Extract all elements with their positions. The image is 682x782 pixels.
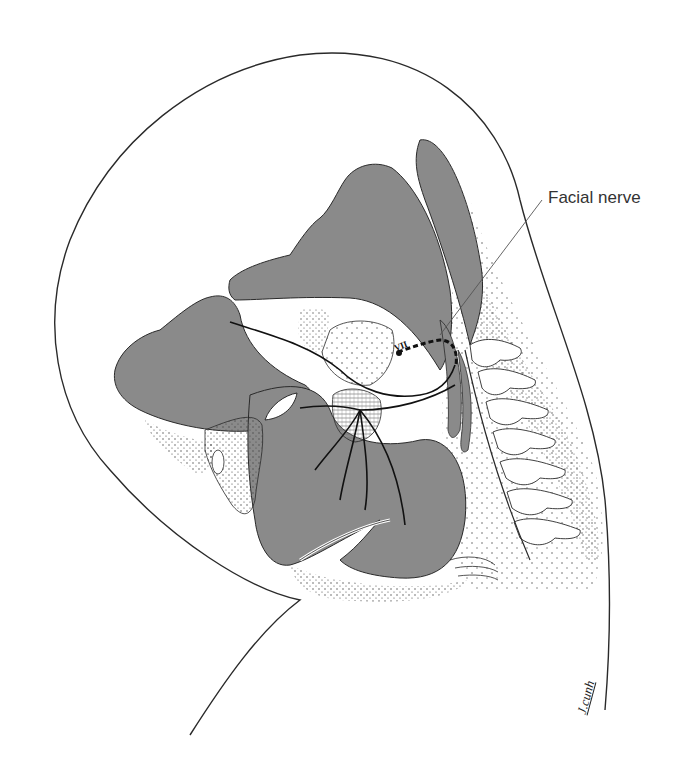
petrous-region [322, 321, 394, 385]
facial-nerve-label: Facial nerve [548, 188, 641, 208]
anatomical-illustration [0, 0, 682, 782]
nasal-cavity [212, 450, 224, 474]
